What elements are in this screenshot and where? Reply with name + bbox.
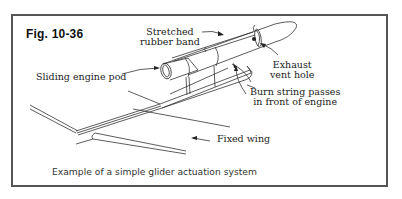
fuselage-boom (30, 104, 162, 135)
figure-caption: Example of a simple glider actuation sys… (52, 166, 257, 177)
label-line: vent hole (270, 70, 314, 80)
exhaust-vent-hole (252, 37, 256, 41)
label-exhaust-vent: Exhaust vent hole (270, 60, 314, 80)
label-rubber-band: Stretched rubber band (140, 27, 200, 47)
figure-title: Fig. 10-36 (26, 27, 83, 41)
label-burn-string: Burn string passes in front of engine (250, 87, 340, 107)
pylon (128, 66, 252, 127)
fixed-wing (76, 133, 186, 154)
label-engine-pod: Sliding engine pod (36, 72, 126, 82)
label-line: rubber band (140, 37, 200, 47)
label-line: in front of engine (250, 97, 340, 107)
label-fixed-wing: Fixed wing (217, 134, 270, 144)
